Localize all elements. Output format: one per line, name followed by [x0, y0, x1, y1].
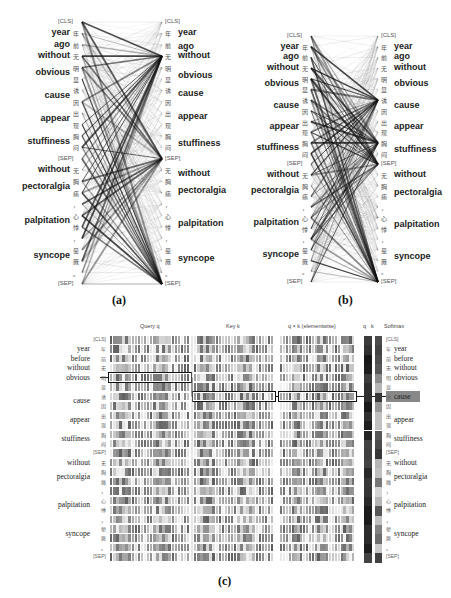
c-right-word: syncope — [394, 529, 419, 538]
c-right-token: 悸 — [386, 506, 391, 513]
softmax-cell — [375, 440, 382, 449]
c-left-token: 厥 — [101, 534, 106, 541]
q-k-cell — [364, 345, 372, 354]
c-right-token: 。 — [386, 544, 391, 551]
c-left-word: without — [67, 363, 90, 372]
c-right-token: 心 — [386, 497, 391, 504]
softmax-cell — [375, 383, 382, 392]
c-right-token: 晕 — [386, 525, 391, 532]
q-k-cell — [364, 497, 372, 506]
softmax-cell — [375, 355, 382, 364]
c-left-word: without — [67, 458, 90, 467]
q-k-cell — [364, 544, 372, 553]
c-left-token: 闷 — [101, 440, 106, 447]
c-right-token: 明 — [386, 374, 391, 381]
c-right-token: 痛 — [386, 478, 391, 485]
c-left-token: ， — [101, 516, 106, 523]
c-right-token: 闷 — [386, 440, 391, 447]
c-left-token: 心 — [101, 497, 106, 504]
c-left-word: year — [77, 344, 90, 353]
softmax-cell — [375, 431, 382, 440]
c-left-token: 。 — [101, 544, 106, 551]
q-k-cell — [364, 478, 372, 487]
q-k-cell — [364, 393, 372, 402]
c-right-token: 厥 — [386, 534, 391, 541]
c-left-word: pectoralgia — [57, 472, 90, 481]
c-right-token: [SEP] — [386, 449, 399, 455]
c-left-token: [CLS] — [93, 336, 106, 342]
softmax-cell — [375, 421, 382, 430]
c-right-token: 诱 — [386, 393, 391, 400]
softmax-cell — [375, 487, 382, 496]
softmax-cell — [375, 534, 382, 543]
softmax-cell — [375, 393, 382, 402]
c-left-token: 出 — [101, 412, 106, 419]
softmax-cell — [375, 449, 382, 458]
q-k-cell — [364, 468, 372, 477]
q-k-cell — [364, 534, 372, 543]
q-k-cell — [364, 383, 372, 392]
c-left-word: obvious — [66, 373, 90, 382]
c-right-token: 前 — [386, 355, 391, 362]
c-right-token: 胸 — [386, 431, 391, 438]
q-k-cell — [364, 364, 372, 373]
c-right-token: 无 — [386, 459, 391, 466]
q-k-cell — [364, 516, 372, 525]
c-left-token: 因 — [101, 402, 106, 409]
q-k-cell — [364, 412, 372, 421]
c-left-word: stuffiness — [61, 434, 90, 443]
softmax-cell — [375, 478, 382, 487]
softmax-cell — [375, 516, 382, 525]
c-left-token: 年 — [101, 345, 106, 352]
softmax-cell — [375, 468, 382, 477]
q-k-cell — [364, 431, 372, 440]
softmax-cell — [375, 345, 382, 354]
q-k-cell — [364, 449, 372, 458]
c-right-word: palpitation — [394, 500, 426, 509]
c-left-token: 晕 — [101, 525, 106, 532]
c-right-word: year — [394, 344, 407, 353]
c-right-token: ， — [386, 487, 391, 494]
c-left-token: 显 — [101, 383, 106, 390]
c-left-word: syncope — [65, 529, 90, 538]
softmax-cell — [375, 374, 382, 383]
c-left-word: palpitation — [58, 500, 90, 509]
c-right-token: 显 — [386, 383, 391, 390]
q-k-cell — [364, 336, 372, 345]
softmax-cell — [375, 525, 382, 534]
c-right-token: 现 — [386, 421, 391, 428]
panel_c-caption: (c) — [218, 574, 231, 589]
softmax-cell — [375, 553, 382, 562]
softmax-cell — [375, 544, 382, 553]
c-left-token: 无 — [101, 364, 106, 371]
softmax-cell — [375, 412, 382, 421]
softmax-cell — [375, 364, 382, 373]
q-k-cell — [364, 374, 372, 383]
c-right-token: 因 — [386, 402, 391, 409]
q-k-cell — [364, 525, 372, 534]
c-right-word: cause — [394, 392, 411, 401]
softmax-cell — [375, 506, 382, 515]
c-left-token: 痛 — [101, 478, 106, 485]
q-k-cell — [364, 506, 372, 515]
c-right-word: before — [394, 354, 413, 363]
softmax-cell — [375, 336, 382, 345]
q-k-cell — [364, 459, 372, 468]
c-left-word: before — [71, 354, 90, 363]
c-left-token: 胸 — [101, 468, 106, 475]
c-left-token: [SEP] — [93, 449, 106, 455]
softmax-cell — [375, 402, 382, 411]
q-k-cell — [364, 440, 372, 449]
c-right-token: 无 — [386, 364, 391, 371]
c-left-token: 前 — [101, 355, 106, 362]
c-right-word: stuffiness — [394, 434, 423, 443]
c-right-word: without — [394, 458, 417, 467]
c-right-word: without — [394, 363, 417, 372]
c-left-token: 无 — [101, 459, 106, 466]
c-right-token: [CLS] — [386, 336, 399, 342]
c-left-token: 明 — [101, 374, 106, 381]
c-right-token: 年 — [386, 345, 391, 352]
q-k-cell — [364, 487, 372, 496]
c-right-word: obvious — [394, 373, 418, 382]
c-left-token: 悸 — [101, 506, 106, 513]
